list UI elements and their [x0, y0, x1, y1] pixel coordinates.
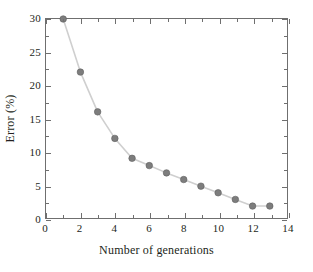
y-tick-major: [46, 86, 51, 87]
y-tick-right-major: [282, 187, 287, 188]
y-tick-minor: [46, 36, 49, 37]
data-point: [180, 176, 187, 183]
data-point: [146, 162, 153, 169]
x-tick-major: [150, 213, 151, 218]
x-tick-label: 12: [248, 222, 259, 234]
plot-area: [46, 19, 287, 218]
x-tick-top-major: [81, 19, 82, 24]
y-tick-right-minor: [284, 136, 287, 137]
chart-figure: Error (%) 02468101214051015202530 Number…: [0, 0, 313, 272]
y-tick-right-major: [282, 19, 287, 20]
x-tick-top-minor: [63, 19, 64, 22]
x-tick-top-major: [220, 19, 221, 24]
y-tick-right-major: [282, 153, 287, 154]
data-point: [94, 109, 101, 116]
y-tick-major: [46, 153, 51, 154]
y-tick-label: 5: [35, 180, 41, 192]
x-tick-label: 2: [77, 222, 83, 234]
y-tick-label: 30: [30, 12, 41, 24]
x-tick-label: 14: [282, 222, 293, 234]
y-tick-minor: [46, 136, 49, 137]
y-tick-label: 15: [30, 113, 41, 125]
x-tick-top-minor: [272, 19, 273, 22]
x-tick-top-major: [185, 19, 186, 24]
x-tick-minor: [272, 215, 273, 218]
data-point: [267, 203, 274, 210]
y-axis-label: Error (%): [3, 94, 18, 142]
x-tick-minor: [98, 215, 99, 218]
x-tick-major: [254, 213, 255, 218]
x-tick-label: 10: [213, 222, 224, 234]
y-tick-right-major: [282, 53, 287, 54]
data-point: [163, 170, 170, 177]
x-tick-top-minor: [237, 19, 238, 22]
x-tick-minor: [63, 215, 64, 218]
y-tick-right-minor: [284, 36, 287, 37]
y-tick-minor: [46, 103, 49, 104]
plot-frame: [45, 18, 288, 219]
x-axis-label: Number of generations: [0, 243, 313, 258]
x-tick-label: 0: [42, 222, 48, 234]
y-tick-minor: [46, 69, 49, 70]
y-tick-major: [46, 120, 51, 121]
x-tick-minor: [133, 215, 134, 218]
y-tick-right-major: [282, 120, 287, 121]
data-point: [198, 183, 205, 190]
data-point: [232, 196, 239, 203]
x-tick-top-minor: [133, 19, 134, 22]
x-tick-top-minor: [202, 19, 203, 22]
data-point: [129, 155, 136, 162]
x-tick-label: 8: [181, 222, 187, 234]
y-tick-label: 0: [35, 213, 41, 225]
data-point: [77, 69, 84, 76]
x-tick-top-major: [289, 19, 290, 24]
x-tick-minor: [237, 215, 238, 218]
x-tick-major: [220, 213, 221, 218]
x-tick-major: [115, 213, 116, 218]
x-tick-top-major: [115, 19, 116, 24]
y-tick-right-minor: [284, 69, 287, 70]
x-tick-major: [185, 213, 186, 218]
y-tick-minor: [46, 170, 49, 171]
y-tick-right-major: [282, 86, 287, 87]
x-tick-major: [81, 213, 82, 218]
y-tick-label: 20: [30, 79, 41, 91]
x-tick-label: 4: [112, 222, 118, 234]
y-tick-right-minor: [284, 203, 287, 204]
x-tick-major: [46, 213, 47, 218]
x-tick-major: [289, 213, 290, 218]
y-tick-minor: [46, 203, 49, 204]
data-point: [215, 190, 222, 197]
x-tick-top-major: [150, 19, 151, 24]
y-tick-right-major: [282, 220, 287, 221]
y-axis-label-container: Error (%): [2, 0, 18, 237]
data-point: [249, 203, 256, 210]
y-tick-label: 25: [30, 46, 41, 58]
y-tick-major: [46, 187, 51, 188]
series-markers: [60, 16, 273, 210]
y-tick-label: 10: [30, 146, 41, 158]
x-tick-label: 6: [146, 222, 152, 234]
data-point: [112, 135, 119, 142]
y-tick-major: [46, 53, 51, 54]
x-tick-top-major: [254, 19, 255, 24]
x-tick-minor: [168, 215, 169, 218]
y-tick-right-minor: [284, 103, 287, 104]
y-tick-right-minor: [284, 170, 287, 171]
x-tick-top-minor: [168, 19, 169, 22]
y-tick-major: [46, 220, 51, 221]
x-tick-top-minor: [98, 19, 99, 22]
x-tick-minor: [202, 215, 203, 218]
y-tick-major: [46, 19, 51, 20]
